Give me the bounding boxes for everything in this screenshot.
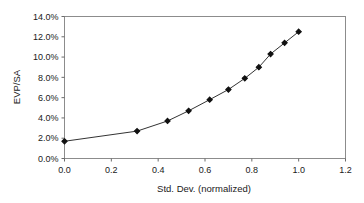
x-axis-tick-label: 0.4 (152, 165, 165, 175)
x-axis-tick-label: 0.2 (105, 165, 118, 175)
line-chart: 0.0%2.0%4.0%6.0%8.0%10.0%12.0%14.0% 0.00… (0, 0, 364, 203)
x-axis-tick-label: 0.0 (58, 165, 71, 175)
x-axis-tick-label: 1.2 (339, 165, 352, 175)
y-axis-tick-label: 10.0% (33, 52, 59, 62)
y-axis-tick-label: 2.0% (38, 133, 59, 143)
y-axis-title: EVP/SA (11, 69, 22, 104)
y-axis-tick-label: 6.0% (38, 93, 59, 103)
y-axis-tick-label: 14.0% (33, 12, 59, 22)
x-axis-title: Std. Dev. (normalized) (157, 183, 251, 194)
plot-frame (65, 17, 346, 159)
y-axis-tick-label: 4.0% (38, 113, 59, 123)
x-axis-tick-label: 1.0 (292, 165, 305, 175)
x-axis-tick-label: 0.6 (199, 165, 212, 175)
y-axis-tick-label: 12.0% (33, 32, 59, 42)
x-axis-tick-label: 0.8 (246, 165, 259, 175)
y-axis-tick-label: 0.0% (38, 154, 59, 164)
y-axis-tick-label: 8.0% (38, 73, 59, 83)
chart-container: 0.0%2.0%4.0%6.0%8.0%10.0%12.0%14.0% 0.00… (0, 0, 364, 203)
